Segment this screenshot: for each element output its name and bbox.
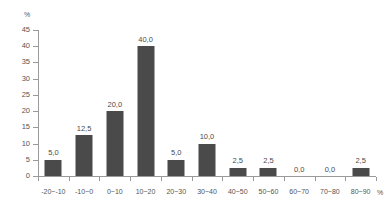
x-axis-tick — [161, 177, 162, 181]
bar[interactable] — [106, 111, 123, 176]
x-axis-tick — [284, 177, 285, 181]
x-axis-category-label: 40~50 — [228, 188, 248, 195]
x-axis-category-label: 10~20 — [136, 188, 156, 195]
y-axis-unit-label: % — [24, 11, 30, 18]
y-axis-tick-label: 5 — [0, 156, 30, 164]
bar[interactable] — [352, 168, 369, 176]
bar[interactable] — [137, 46, 154, 176]
bar-value-label: 2,5 — [355, 157, 365, 165]
bar-value-label: 2,5 — [263, 157, 273, 165]
bar[interactable] — [198, 144, 215, 176]
bar-slot: 20,0 — [99, 30, 130, 176]
x-axis-tick — [69, 177, 70, 181]
y-axis-tick-label: 10 — [0, 140, 30, 148]
bar-slot: 40,0 — [130, 30, 161, 176]
y-axis-tick-label: 40 — [0, 42, 30, 50]
x-axis-tick — [99, 177, 100, 181]
bar[interactable] — [45, 160, 62, 176]
x-axis-category-label: 0~10 — [107, 188, 123, 195]
x-axis-category-label: 60~70 — [289, 188, 309, 195]
bar-slot: 5,0 — [161, 30, 192, 176]
x-axis-category-label: 70~80 — [320, 188, 340, 195]
bar-value-label: 40,0 — [138, 36, 153, 44]
x-axis-category-label: 20~30 — [166, 188, 186, 195]
bar-value-label: 12,5 — [77, 125, 92, 133]
bar-value-label: 5,0 — [171, 149, 181, 157]
x-axis-tick — [192, 177, 193, 181]
y-axis-tick-label: 25 — [0, 91, 30, 99]
x-axis-unit-label: % — [377, 189, 383, 196]
bar-value-label: 0,0 — [294, 166, 304, 174]
bar[interactable] — [260, 168, 277, 176]
bar-slot: 0,0 — [315, 30, 346, 176]
y-axis-tick-label: 0 — [0, 172, 30, 180]
y-axis-tick-label: 15 — [0, 123, 30, 131]
bar-slot: 10,0 — [192, 30, 223, 176]
bar-value-label: 20,0 — [108, 101, 123, 109]
x-axis-line — [38, 176, 376, 177]
bar-slot: 2,5 — [222, 30, 253, 176]
bar-value-label: 2,5 — [233, 157, 243, 165]
x-axis-category-label: -20~-10 — [41, 188, 65, 195]
bar[interactable] — [229, 168, 246, 176]
bar-chart: % % 051015202530354045 5,012,520,040,05,… — [0, 0, 391, 210]
x-axis-tick — [315, 177, 316, 181]
bar-value-label: 0,0 — [325, 166, 335, 174]
bar[interactable] — [76, 135, 93, 176]
x-axis-tick — [253, 177, 254, 181]
y-axis-tick-label: 30 — [0, 75, 30, 83]
y-axis-tick-label: 20 — [0, 107, 30, 115]
y-axis-tick-label: 45 — [0, 26, 30, 34]
x-axis-tick — [376, 177, 377, 181]
x-axis-tick — [38, 177, 39, 181]
bar-slot: 5,0 — [38, 30, 69, 176]
bar-slot: 2,5 — [253, 30, 284, 176]
y-axis-tick-label: 35 — [0, 58, 30, 66]
x-axis-category-label: -10~0 — [75, 188, 93, 195]
x-axis-tick — [222, 177, 223, 181]
bar-slot: 2,5 — [345, 30, 376, 176]
x-axis-category-label: 80~90 — [351, 188, 371, 195]
bar-value-label: 5,0 — [48, 149, 58, 157]
x-axis-tick — [345, 177, 346, 181]
bar-value-label: 10,0 — [200, 133, 215, 141]
bar-slot: 0,0 — [284, 30, 315, 176]
bar-slot: 12,5 — [69, 30, 100, 176]
x-axis-tick — [130, 177, 131, 181]
bar[interactable] — [168, 160, 185, 176]
x-axis-category-label: 30~40 — [197, 188, 217, 195]
x-axis-category-label: 50~60 — [259, 188, 279, 195]
